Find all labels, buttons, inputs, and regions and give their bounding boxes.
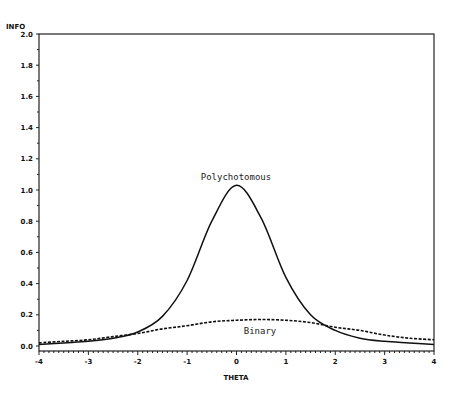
x-tick-label: -4	[35, 358, 43, 366]
y-tick-label: 0.2	[21, 311, 34, 319]
x-tick-label: -2	[134, 358, 142, 366]
information-chart: 0.00.20.40.60.81.01.21.41.61.82.0 -4-3-2…	[0, 0, 449, 395]
y-tick-label: 0.4	[21, 280, 34, 288]
y-axis-title: INFO	[6, 23, 25, 31]
x-tick-label: -3	[84, 358, 92, 366]
plot-frame	[39, 34, 434, 351]
y-axis: 0.00.20.40.60.81.01.21.41.61.82.0	[21, 31, 39, 351]
x-axis: -4-3-2-101234	[35, 351, 436, 366]
x-axis-title: THETA	[223, 374, 249, 382]
y-tick-label: 0.0	[21, 343, 34, 351]
polychotomous-label: Polychotomous	[201, 172, 271, 182]
x-tick-label: 3	[382, 358, 387, 366]
y-tick-label: 1.0	[21, 187, 34, 195]
y-tick-label: 0.6	[21, 249, 34, 257]
binary-curve	[39, 319, 434, 342]
x-tick-label: 1	[283, 358, 288, 366]
y-tick-label: 0.8	[21, 218, 34, 226]
x-tick-label: 0	[234, 358, 239, 366]
x-tick-label: -1	[183, 358, 191, 366]
x-tick-label: 2	[333, 358, 338, 366]
y-tick-label: 1.4	[21, 124, 34, 132]
binary-label: Binary	[244, 326, 277, 336]
y-tick-label: 1.8	[21, 62, 34, 70]
y-tick-label: 1.2	[21, 155, 34, 163]
x-tick-label: 4	[432, 358, 437, 366]
y-tick-label: 2.0	[21, 31, 34, 39]
y-tick-label: 1.6	[21, 93, 34, 101]
